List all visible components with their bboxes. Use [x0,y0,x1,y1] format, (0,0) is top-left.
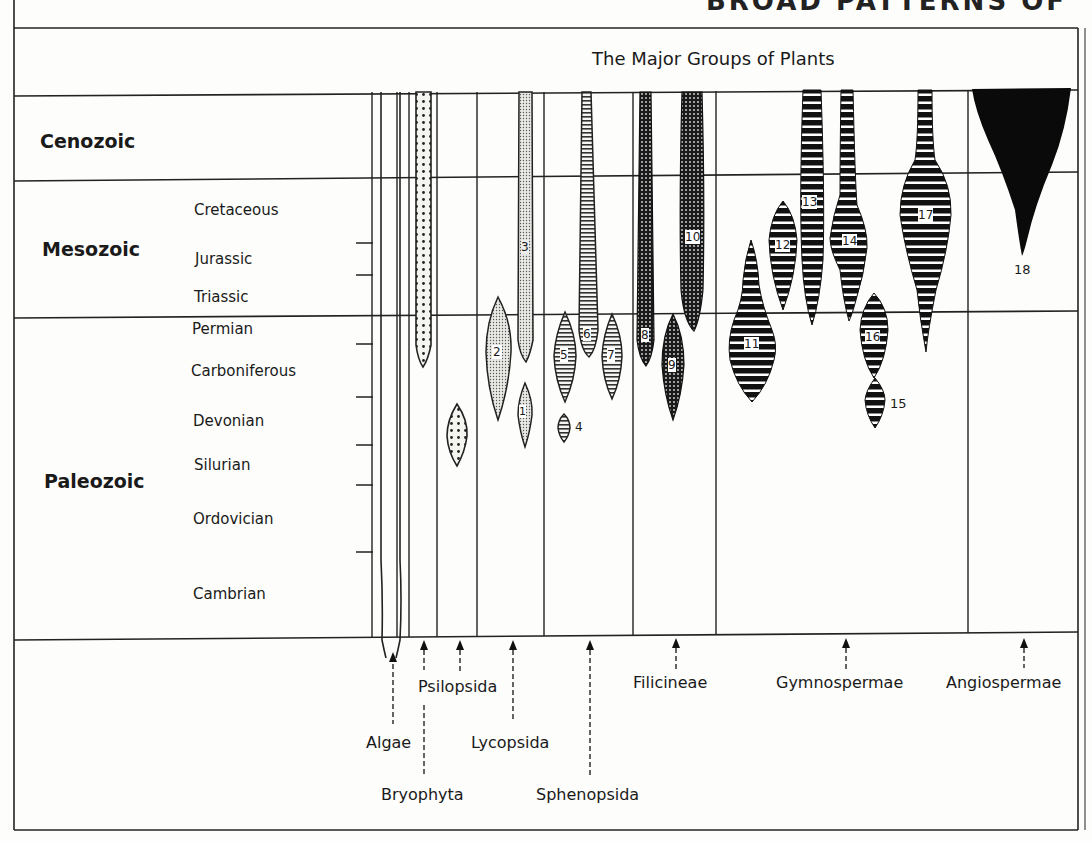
period-ticks [356,243,373,552]
lineage-label-12: 12 [775,238,790,252]
group-label-psilopsida: Psilopsida [418,677,497,696]
lineage-10 [680,92,704,331]
period-label-carboniferous: Carboniferous [191,362,296,380]
bryophyta-lineage [416,92,431,367]
group-label-bryophyta: Bryophyta [381,785,464,804]
group-label-filicineae: Filicineae [633,673,707,692]
lineage-label-2: 2 [492,345,502,359]
period-label-ordovician: Ordovician [193,510,274,528]
lineage-label-8: 8 [641,328,649,342]
lineage-11 [729,240,776,402]
lineage-label-1: 1 [519,405,526,418]
lineage-label-6: 6 [583,327,591,341]
period-label-devonian: Devonian [193,412,264,430]
lineage-label-17: 17 [918,208,933,222]
algae-lineage [381,92,401,658]
lineage-label-10: 10 [685,230,700,244]
period-label-triassic: Triassic [194,288,249,306]
period-label-cambrian: Cambrian [193,585,266,603]
lineage-label-3: 3 [521,240,529,254]
group-label-gymnospermae: Gymnospermae [776,673,903,692]
lineage-8 [637,92,654,366]
lineage-14 [830,90,867,321]
arrow-heads [389,638,1028,662]
lineage-label-4: 4 [575,420,583,434]
lineage-label-16: 16 [865,330,880,344]
lineage-label-9: 9 [668,358,676,372]
psilopsida-lineage [447,404,467,466]
group-label-angiospermae: Angiospermae [946,673,1061,692]
chart-title: The Major Groups of Plants [592,48,835,69]
lineage-label-18: 18 [1014,262,1031,277]
lineage-label-14: 14 [842,234,857,248]
era-label-cenozoic: Cenozoic [40,130,135,152]
group-label-sphenopsida: Sphenopsida [536,785,639,804]
page-heading-partial: BROAD PATTERNS OF [706,0,1067,16]
diagram-canvas [0,0,1092,841]
lineage-15 [865,378,885,428]
period-label-permian: Permian [192,320,253,338]
group-label-lycopsida: Lycopsida [471,733,549,752]
lineage-label-5: 5 [560,348,568,362]
lineage-label-7: 7 [607,348,615,362]
lineage-4 [558,414,570,442]
group-arrows [393,648,1024,776]
period-label-jurassic: Jurassic [195,250,252,268]
era-label-paleozoic: Paleozoic [44,470,145,492]
lineage-label-15: 15 [890,396,907,411]
lineage-6 [579,92,598,357]
lineage-label-13: 13 [802,195,817,209]
lineage-label-11: 11 [744,337,759,351]
lineage-12 [769,201,797,310]
era-label-mesozoic: Mesozoic [42,238,140,260]
group-label-algae: Algae [366,733,411,752]
period-label-cretaceous: Cretaceous [194,201,279,219]
period-label-silurian: Silurian [194,456,250,474]
lineage-3 [518,92,533,362]
